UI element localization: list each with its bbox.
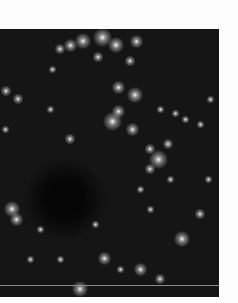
spot [194,208,206,220]
spot [36,225,45,234]
spot [133,262,148,277]
spot [1,125,10,134]
spot [162,138,174,150]
spot [126,86,144,104]
spot [97,251,112,266]
spot [181,115,190,124]
spot [144,143,156,155]
spot [0,85,12,97]
spot [56,255,65,264]
image-field [0,29,219,297]
spot [136,185,145,194]
spot [71,280,89,297]
spot [171,109,180,118]
spot [9,212,24,227]
spot [144,163,156,175]
spot [12,93,24,105]
spot [124,55,136,67]
spot [26,255,35,264]
spot [166,175,175,184]
spot [92,51,104,63]
spot [154,273,166,285]
spot [46,105,55,114]
spot [204,175,213,184]
spot [54,43,66,55]
spot [91,220,100,229]
spot [102,111,123,132]
spot [111,80,126,95]
horizontal-line [0,285,219,286]
spot [206,95,215,104]
spot [146,205,155,214]
spot [173,230,191,248]
spot [156,105,165,114]
spot [129,34,144,49]
spot [48,65,57,74]
spot [125,122,140,137]
spot [107,36,125,54]
spot [64,133,76,145]
spot [196,120,205,129]
spot [116,265,125,274]
